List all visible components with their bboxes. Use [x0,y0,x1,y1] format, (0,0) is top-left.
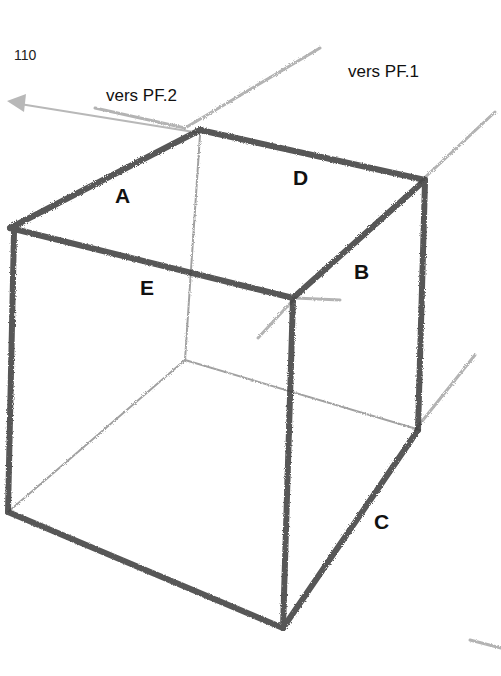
construction-lines [95,48,501,648]
edge-label-b: B [354,260,369,284]
edge-d [200,130,425,180]
cube-sketch [0,0,501,676]
edge-c [283,430,418,628]
hidden-edges [8,135,420,512]
edge-a [10,130,200,228]
edge-label-e: E [140,276,154,300]
direction-label-pf2: vers PF.2 [106,86,177,106]
edge-label-d: D [293,166,308,190]
page-number: 110 [14,47,36,63]
edge-label-c: C [374,510,389,534]
visible-edges [8,130,425,628]
direction-label-pf1: vers PF.1 [348,62,419,82]
edge-label-a: A [115,184,130,208]
